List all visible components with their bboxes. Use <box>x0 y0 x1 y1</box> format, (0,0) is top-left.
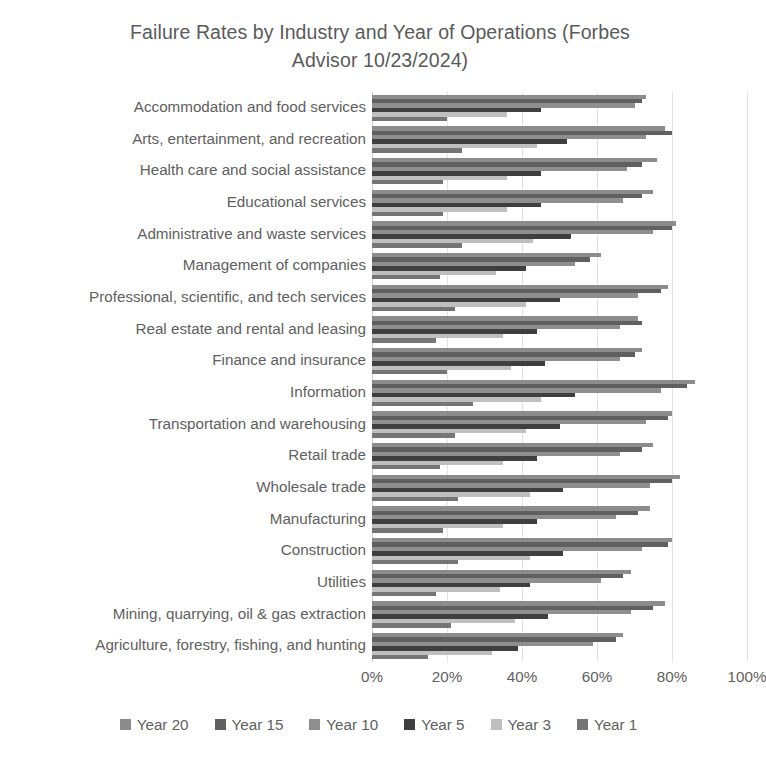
category-label: Wholesale trade <box>6 478 366 495</box>
category-label: Finance and insurance <box>6 351 366 368</box>
category-label: Real estate and rental and leasing <box>6 320 366 337</box>
bar-cluster <box>372 285 747 311</box>
bar <box>372 497 458 501</box>
bar <box>372 117 447 121</box>
legend-swatch-icon <box>309 719 320 730</box>
category-axis-labels: Accommodation and food servicesArts, ent… <box>0 92 366 662</box>
bar <box>372 402 473 406</box>
legend-item-year-10[interactable]: Year 10 <box>309 716 378 733</box>
category-label: Information <box>6 383 366 400</box>
legend-swatch-icon <box>215 719 226 730</box>
bar-cluster <box>372 95 747 121</box>
bar-cluster <box>372 158 747 184</box>
category-label: Retail trade <box>6 446 366 463</box>
category-label: Management of companies <box>6 256 366 273</box>
bar-cluster <box>372 190 747 216</box>
bar <box>372 212 443 216</box>
category-label: Manufacturing <box>6 510 366 527</box>
legend-label: Year 3 <box>508 716 551 733</box>
legend-item-year-3[interactable]: Year 3 <box>491 716 551 733</box>
bar-cluster <box>372 538 747 564</box>
value-axis-ticks: 0%20%40%60%80%100% <box>372 668 752 694</box>
bar <box>372 655 428 659</box>
chart-title: Failure Rates by Industry and Year of Op… <box>70 18 690 74</box>
x-axis-tick-label: 0% <box>361 668 383 685</box>
x-axis-tick-label: 40% <box>507 668 537 685</box>
legend-label: Year 1 <box>594 716 637 733</box>
bar <box>372 307 455 311</box>
legend-item-year-5[interactable]: Year 5 <box>404 716 464 733</box>
bar <box>372 180 443 184</box>
legend-label: Year 20 <box>137 716 189 733</box>
legend-label: Year 10 <box>326 716 378 733</box>
bar-cluster <box>372 475 747 501</box>
x-axis-tick-label: 80% <box>657 668 687 685</box>
category-label: Transportation and warehousing <box>6 415 366 432</box>
category-label: Educational services <box>6 193 366 210</box>
bar <box>372 623 451 627</box>
chart-legend: Year 20Year 15Year 10Year 5Year 3Year 1 <box>0 716 757 733</box>
bar-cluster <box>372 443 747 469</box>
bar <box>372 148 462 152</box>
legend-swatch-icon <box>491 719 502 730</box>
bar <box>372 528 443 532</box>
category-label: Construction <box>6 541 366 558</box>
bar <box>372 560 458 564</box>
legend-swatch-icon <box>577 719 588 730</box>
category-label: Utilities <box>6 573 366 590</box>
bar <box>372 243 462 247</box>
bar-cluster <box>372 506 747 532</box>
bar-cluster <box>372 601 747 627</box>
bar <box>372 338 436 342</box>
category-label: Accommodation and food services <box>6 98 366 115</box>
bar-cluster <box>372 221 747 247</box>
legend-item-year-1[interactable]: Year 1 <box>577 716 637 733</box>
bar-cluster <box>372 380 747 406</box>
legend-swatch-icon <box>404 719 415 730</box>
category-label: Health care and social assistance <box>6 161 366 178</box>
category-label: Mining, quarrying, oil & gas extraction <box>6 605 366 622</box>
legend-item-year-20[interactable]: Year 20 <box>120 716 189 733</box>
bar-cluster <box>372 316 747 342</box>
plot-area <box>372 92 747 662</box>
category-label: Professional, scientific, and tech servi… <box>6 288 366 305</box>
bar-cluster <box>372 411 747 437</box>
plot-wrapper: Accommodation and food servicesArts, ent… <box>0 92 757 667</box>
bar-cluster <box>372 126 747 152</box>
bar <box>372 370 447 374</box>
x-axis-tick-label: 20% <box>432 668 462 685</box>
bar-cluster <box>372 348 747 374</box>
bar-cluster <box>372 633 747 659</box>
gridline <box>747 92 748 662</box>
category-label: Agriculture, forestry, fishing, and hunt… <box>6 636 366 653</box>
x-axis-tick-label: 100% <box>728 668 766 685</box>
bar <box>372 433 455 437</box>
category-label: Administrative and waste services <box>6 225 366 242</box>
bar-cluster <box>372 570 747 596</box>
category-label: Arts, entertainment, and recreation <box>6 130 366 147</box>
bar-cluster <box>372 253 747 279</box>
bar <box>372 592 436 596</box>
legend-label: Year 15 <box>232 716 284 733</box>
x-axis-tick-label: 60% <box>582 668 612 685</box>
legend-swatch-icon <box>120 719 131 730</box>
legend-item-year-15[interactable]: Year 15 <box>215 716 284 733</box>
bar <box>372 465 440 469</box>
legend-label: Year 5 <box>421 716 464 733</box>
bar <box>372 275 440 279</box>
